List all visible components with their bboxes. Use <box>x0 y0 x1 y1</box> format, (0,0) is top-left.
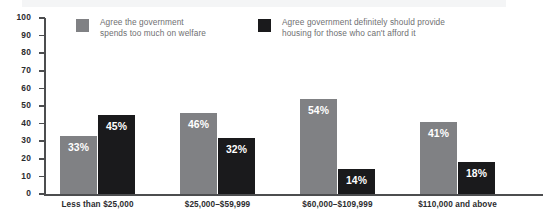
bar-value-label: 33% <box>60 142 97 153</box>
y-axis-tick: 50 <box>39 105 45 107</box>
y-axis-tick-label: 60 <box>21 83 31 93</box>
x-axis-category-label: $25,000–$59,999 <box>185 200 251 209</box>
y-axis-tick-label: 0 <box>26 188 31 198</box>
x-axis-baseline <box>44 194 543 196</box>
bar-group: 54%14%$60,000–$109,999 <box>300 18 375 194</box>
x-axis-category-label: $60,000–$109,999 <box>302 200 372 209</box>
bar-welfare-spending[interactable]: 46% <box>180 113 217 194</box>
bar-housing-provision[interactable]: 14% <box>338 169 375 194</box>
bar-group: 33%45%Less than $25,000 <box>60 18 135 194</box>
y-axis-tick: 40 <box>39 123 45 125</box>
y-axis-tick-label: 70 <box>21 65 31 75</box>
y-axis-tick: 100 <box>39 17 45 19</box>
bar-value-label: 46% <box>180 119 217 130</box>
y-axis-tick-label: 20 <box>21 153 31 163</box>
bar-value-label: 54% <box>300 105 337 116</box>
bar-group: 46%32%$25,000–$59,999 <box>180 18 255 194</box>
y-axis-tick: 60 <box>39 88 45 90</box>
y-axis-tick-label: 90 <box>21 30 31 40</box>
y-axis-tick: 10 <box>39 176 45 178</box>
bar-group: 41%18%$110,000 and above <box>420 18 495 194</box>
y-axis-tick: 70 <box>39 70 45 72</box>
top-header-band <box>22 0 506 7</box>
x-axis-category-label: $110,000 and above <box>418 200 497 209</box>
bar-housing-provision[interactable]: 18% <box>458 162 495 194</box>
bar-value-label: 45% <box>98 121 135 132</box>
bar-value-label: 18% <box>458 168 495 179</box>
bar-value-label: 41% <box>420 128 457 139</box>
bar-value-label: 14% <box>338 175 375 186</box>
y-axis-tick: 90 <box>39 35 45 37</box>
y-axis-tick-label: 30 <box>21 135 31 145</box>
bar-housing-provision[interactable]: 45% <box>98 115 135 194</box>
y-axis-tick: 80 <box>39 52 45 54</box>
bar-welfare-spending[interactable]: 54% <box>300 99 337 194</box>
bar-value-label: 32% <box>218 144 255 155</box>
bar-welfare-spending[interactable]: 41% <box>420 122 457 194</box>
y-axis-tick-label: 50 <box>21 100 31 110</box>
bar-welfare-spending[interactable]: 33% <box>60 136 97 194</box>
income-welfare-housing-bar-chart: Agree the government spends too much on … <box>0 0 543 219</box>
y-axis-tick: 0 <box>39 193 45 195</box>
y-axis-tick-label: 40 <box>21 118 31 128</box>
bar-housing-provision[interactable]: 32% <box>218 138 255 194</box>
plot-area: 1009080706050403020100 33%45%Less than $… <box>44 18 543 194</box>
y-axis-tick: 30 <box>39 140 45 142</box>
y-axis-tick-label: 10 <box>21 171 31 181</box>
y-axis-tick: 20 <box>39 158 45 160</box>
y-axis-tick-label: 80 <box>21 47 31 57</box>
y-axis-tick-label: 100 <box>17 12 31 22</box>
x-axis-category-label: Less than $25,000 <box>61 200 133 209</box>
